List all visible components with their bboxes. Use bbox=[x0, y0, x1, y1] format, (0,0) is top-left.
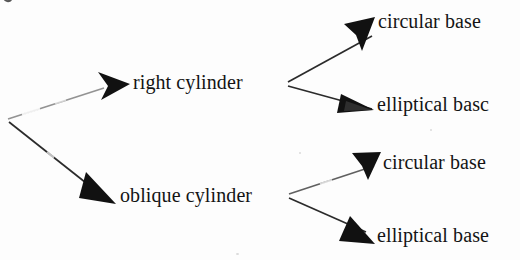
node-label-right-elliptical-base[interactable]: elliptical basc bbox=[377, 94, 489, 114]
arrowhead-right-cylinder-to-elliptical-base bbox=[337, 94, 374, 113]
tree-graphic bbox=[0, 0, 520, 260]
arrowhead-root-to-oblique-cylinder bbox=[79, 172, 116, 204]
scan-speck bbox=[430, 129, 432, 131]
diagram-canvas: right cylinder oblique cylinder circular… bbox=[0, 0, 520, 260]
arrowhead-right-cylinder-to-circular-base bbox=[344, 17, 375, 51]
scan-speck bbox=[299, 152, 301, 154]
arrowhead-oblique-cylinder-to-elliptical-base bbox=[339, 216, 375, 244]
node-label-oblique-elliptical-base[interactable]: elliptical base bbox=[377, 225, 489, 245]
arrowhead-root-to-right-cylinder bbox=[98, 72, 130, 100]
node-label-oblique-circular-base[interactable]: circular base bbox=[383, 152, 486, 172]
node-label-oblique-cylinder[interactable]: oblique cylinder bbox=[120, 185, 252, 205]
edge-oblique-cylinder-to-circular-base bbox=[289, 166, 374, 194]
node-label-right-circular-base[interactable]: circular base bbox=[378, 11, 481, 31]
arrowhead-oblique-cylinder-to-circular-base bbox=[352, 152, 381, 180]
clipped-descender-icon bbox=[2, 0, 13, 2]
node-label-right-cylinder[interactable]: right cylinder bbox=[133, 72, 243, 92]
edge-root-to-right-cylinder bbox=[8, 88, 104, 119]
scan-speck bbox=[236, 253, 239, 255]
edge-root-to-oblique-cylinder bbox=[9, 122, 95, 190]
